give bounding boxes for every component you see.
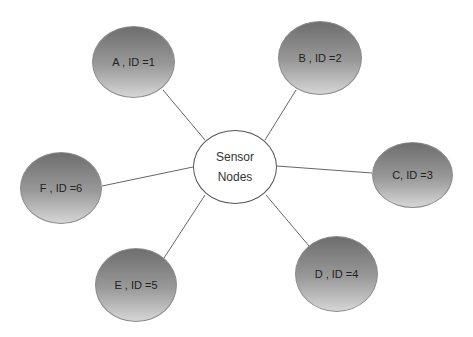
node-e-label: E , ID =5 <box>114 279 157 291</box>
node-b: B , ID =2 <box>278 21 362 95</box>
link-b <box>265 90 296 140</box>
link-e <box>164 195 205 258</box>
node-b-label: B , ID =2 <box>298 52 341 64</box>
link-c <box>277 166 372 173</box>
node-c: C, ID =3 <box>372 142 453 208</box>
hub-label-line1: Sensor <box>216 147 254 167</box>
node-c-label: C, ID =3 <box>392 169 433 181</box>
link-a <box>163 90 205 140</box>
sensor-nodes-hub: Sensor Nodes <box>193 130 277 204</box>
node-a: A , ID =1 <box>92 26 175 98</box>
link-d <box>266 195 309 246</box>
node-f-label: F , ID =6 <box>40 182 83 194</box>
link-f <box>102 167 193 186</box>
node-d: D , ID =4 <box>295 236 378 312</box>
node-f: F , ID =6 <box>20 152 102 224</box>
hub-label-line2: Nodes <box>218 167 253 187</box>
node-e: E , ID =5 <box>95 248 177 322</box>
node-d-label: D , ID =4 <box>315 268 359 280</box>
node-a-label: A , ID =1 <box>112 56 155 68</box>
